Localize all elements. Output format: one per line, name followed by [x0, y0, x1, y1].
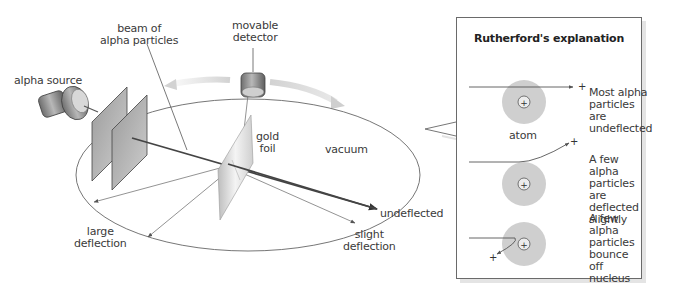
- movable-detector: [241, 73, 265, 97]
- svg-text:+: +: [578, 81, 586, 92]
- svg-text:+: +: [520, 98, 528, 108]
- case-3-text: A few alpha particles bounce off nucleus: [589, 213, 641, 285]
- explanation-panel: Rutherford's explanation + + + + +: [456, 17, 642, 279]
- label-undeflected: undeflected: [380, 208, 443, 220]
- rotation-arrow-right: [270, 82, 345, 109]
- label-slight-deflection: slight deflection: [343, 229, 396, 253]
- svg-text:+: +: [489, 252, 497, 263]
- atom-label: atom: [509, 130, 537, 142]
- atom-case-1: + +: [469, 80, 586, 124]
- case-1-text: Most alpha particles are undeflected: [589, 87, 652, 135]
- label-detector: movable detector: [232, 20, 278, 44]
- label-alpha-source: alpha source: [14, 75, 82, 87]
- callout-pointer: [425, 122, 456, 136]
- svg-text:+: +: [520, 240, 528, 250]
- label-gold-foil: gold foil: [256, 131, 279, 155]
- svg-text:+: +: [520, 180, 528, 190]
- gold-foil: [218, 115, 253, 220]
- label-beam: beam of alpha particles: [100, 23, 178, 47]
- svg-text:+: +: [570, 136, 578, 147]
- label-vacuum: vacuum: [325, 144, 368, 156]
- label-large-deflection: large deflection: [74, 226, 127, 250]
- alpha-source: [37, 83, 98, 123]
- atom-case-2: + +: [469, 136, 578, 206]
- atom-case-3: + +: [469, 222, 546, 266]
- rotation-arrow-left: [164, 79, 230, 90]
